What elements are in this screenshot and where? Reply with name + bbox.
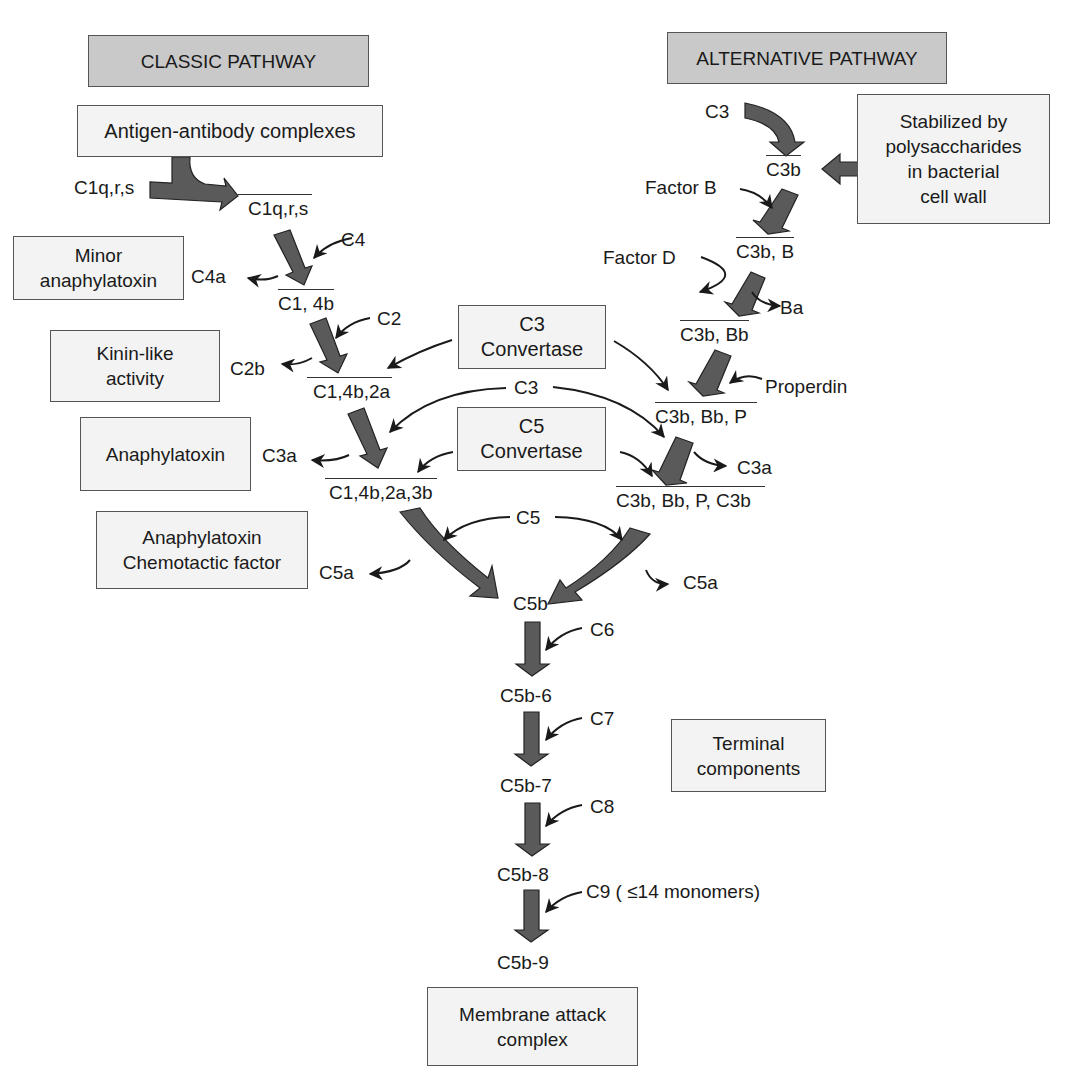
fat-arrow-c3b — [745, 103, 804, 156]
c2-label: C2 — [377, 308, 401, 330]
c5-shared-label: C5 — [516, 507, 540, 529]
c14b2a3b-label: C1,4b,2a,3b — [325, 478, 437, 504]
fat-arrow-c3bBbP — [689, 350, 731, 396]
fat-arrow-c5b8 — [516, 803, 549, 856]
fat-arrow-c3bBbPC3b — [652, 437, 693, 485]
c4a-label: C4a — [191, 266, 226, 288]
c7-label: C7 — [590, 708, 614, 730]
c3bB-label: C3b, B — [736, 237, 794, 263]
c9-label: C9 ( ≤14 monomers) — [586, 881, 760, 903]
c1qrs-input-label: C1q,r,s — [74, 177, 134, 199]
c3bBbP-label: C3b, Bb, P — [655, 402, 757, 428]
fat-arrow-c5b6 — [516, 622, 549, 676]
minor-anaphylatoxin-box: Minor anaphylatoxin — [13, 236, 184, 300]
fat-arrow-c1qrs — [150, 157, 238, 210]
factor-b-label: Factor B — [645, 177, 717, 199]
membrane-attack-complex-box: Membrane attack complex — [427, 987, 638, 1066]
kinin-like-box: Kinin-like activity — [50, 330, 220, 402]
c5b9-label: C5b-9 — [497, 952, 549, 974]
c14b-label: C1, 4b — [278, 289, 334, 315]
classic-c3a-label: C3a — [262, 445, 297, 467]
fat-arrow-c14b — [274, 230, 312, 285]
c5b7-label: C5b-7 — [500, 775, 552, 797]
chemotactic-factor-box: Anaphylatoxin Chemotactic factor — [96, 511, 308, 589]
properdin-label: Properdin — [765, 376, 847, 398]
c3b-label: C3b — [766, 155, 801, 181]
c3bBb-label: C3b, Bb — [680, 320, 749, 346]
c3-shared-label: C3 — [514, 377, 538, 399]
alt-c3a-label: C3a — [737, 457, 772, 479]
c5b-label: C5b — [513, 593, 548, 615]
fat-arrow-c5b7 — [515, 712, 548, 766]
c3bBbPC3b-label: C3b, Bb, P, C3b — [616, 486, 765, 512]
antigen-antibody-box: Antigen-antibody complexes — [77, 105, 383, 157]
fat-arrow-c3bBb — [725, 272, 765, 316]
fat-arrow-c14b2a3b — [348, 408, 387, 468]
c2b-label: C2b — [230, 358, 265, 380]
classic-c5a-label: C5a — [319, 562, 354, 584]
c3-convertase-box: C3 Convertase — [458, 305, 606, 369]
c6-label: C6 — [590, 619, 614, 641]
factor-d-label: Factor D — [603, 247, 676, 269]
c5b6-label: C5b-6 — [500, 685, 552, 707]
stabilized-box: Stabilized by polysaccharides in bacteri… — [857, 94, 1050, 224]
c5-convertase-box: C5 Convertase — [457, 407, 606, 471]
alternative-pathway-header: ALTERNATIVE PATHWAY — [667, 32, 947, 84]
fat-arrow-c14b2a — [310, 318, 347, 373]
c5b8-label: C5b-8 — [497, 864, 549, 886]
ba-label: Ba — [780, 297, 803, 319]
c4-label: C4 — [341, 229, 365, 251]
anaphylatoxin-box: Anaphylatoxin — [80, 417, 251, 491]
fat-arrow-c5b9 — [515, 890, 548, 942]
alt-c5a-label: C5a — [683, 572, 718, 594]
c14b2a-label: C1,4b,2a — [307, 377, 392, 403]
c1qrs-active-label: C1q,r,s — [238, 194, 312, 220]
fat-arrow-alt-c5b — [548, 528, 650, 604]
alt-c3-label: C3 — [705, 101, 729, 123]
fat-arrow-classic-c5b — [400, 508, 498, 598]
terminal-components-box: Terminal components — [671, 719, 826, 792]
classic-pathway-header: CLASSIC PATHWAY — [88, 35, 369, 87]
c8-label: C8 — [590, 796, 614, 818]
